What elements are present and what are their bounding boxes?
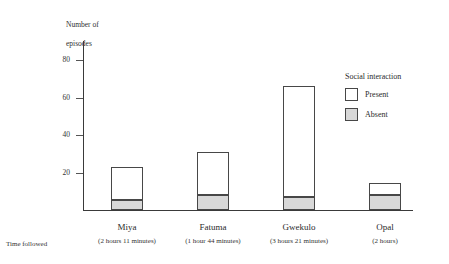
x-category-opal: Opal (2 hours) bbox=[330, 222, 440, 246]
y-axis-title-line2: episodes bbox=[66, 39, 92, 48]
x-category-name: Opal bbox=[330, 222, 440, 233]
y-tick-mark-60 bbox=[76, 98, 83, 99]
legend-title: Social interaction bbox=[345, 72, 449, 81]
legend: Social interaction Present Absent bbox=[345, 72, 449, 128]
legend-swatch-present-icon bbox=[345, 88, 358, 101]
bar-segment-absent bbox=[369, 195, 401, 210]
legend-item-present[interactable]: Present bbox=[345, 88, 449, 101]
y-tick-label-40: 40 bbox=[30, 131, 70, 139]
y-axis-title: Number of episodes bbox=[66, 10, 156, 48]
legend-label-absent: Absent bbox=[365, 110, 388, 119]
y-tick-mark-40 bbox=[76, 135, 83, 136]
y-axis-title-line1: Number of bbox=[66, 20, 99, 29]
bar-segment-present bbox=[283, 86, 315, 196]
y-tick-mark-80 bbox=[76, 60, 83, 61]
bar-fatuma[interactable] bbox=[197, 152, 229, 210]
y-tick-mark-20 bbox=[76, 173, 83, 174]
bar-miya[interactable] bbox=[111, 167, 143, 210]
x-axis-line bbox=[83, 210, 413, 211]
bar-segment-present bbox=[197, 152, 229, 195]
legend-swatch-absent-icon bbox=[345, 108, 358, 121]
bar-segment-absent bbox=[197, 195, 229, 210]
bar-segment-absent bbox=[283, 197, 315, 210]
legend-label-present: Present bbox=[365, 90, 389, 99]
y-tick-label-80: 80 bbox=[30, 56, 70, 64]
x-category-sublabel: (2 hours) bbox=[330, 236, 440, 246]
bar-segment-present bbox=[111, 167, 143, 201]
stacked-bar-chart: Number of episodes 80 60 40 20 Miya (2 h… bbox=[0, 0, 449, 264]
y-tick-label-60: 60 bbox=[30, 94, 70, 102]
bar-segment-present bbox=[369, 183, 401, 194]
y-axis-line bbox=[83, 41, 84, 211]
bar-gwekulo[interactable] bbox=[283, 86, 315, 209]
y-tick-label-20: 20 bbox=[30, 169, 70, 177]
legend-item-absent[interactable]: Absent bbox=[345, 108, 449, 121]
bar-segment-absent bbox=[111, 200, 143, 209]
x-axis-row-label: Time followed bbox=[6, 240, 47, 248]
bar-opal[interactable] bbox=[369, 183, 401, 209]
